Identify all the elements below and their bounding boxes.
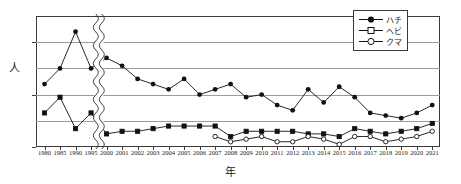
x-tick-label: 2014 [317, 149, 330, 156]
x-tick-mark [91, 147, 92, 150]
x-tick-label: 2013 [302, 149, 315, 156]
x-axis-label: 年 [0, 163, 461, 179]
x-tick-label: 2017 [364, 149, 377, 156]
x-tick-mark [231, 147, 232, 150]
y-tick-mark [32, 147, 36, 148]
chart-legend: ハチ ヘビ クマ [353, 10, 408, 51]
filled-circle-icon [358, 14, 384, 25]
x-tick-mark [293, 147, 294, 150]
x-tick-mark [370, 147, 371, 150]
x-tick-label: 2007 [209, 149, 222, 156]
x-tick-label: 2016 [348, 149, 361, 156]
x-tick-label: 1980 [38, 149, 51, 156]
x-tick-mark [401, 147, 402, 150]
x-tick-mark [324, 147, 325, 150]
x-tick-label: 2006 [193, 149, 206, 156]
x-tick-mark [308, 147, 309, 150]
axis-break-mask [94, 17, 103, 146]
x-tick-label: 2015 [333, 149, 346, 156]
x-tick-mark [107, 147, 108, 150]
chart-figure: 人 年 02040 198019851990199520002001200220… [0, 0, 461, 184]
x-tick-mark [417, 147, 418, 150]
x-tick-mark [76, 147, 77, 150]
x-tick-label: 2021 [426, 149, 439, 156]
y-axis-label: 人 [2, 62, 22, 73]
x-tick-label: 2001 [116, 149, 129, 156]
x-tick-mark [122, 147, 123, 150]
x-tick-mark [169, 147, 170, 150]
x-tick-label: 2011 [271, 149, 284, 156]
x-tick-label: 2010 [255, 149, 268, 156]
x-tick-mark [215, 147, 216, 150]
x-tick-label: 1995 [85, 149, 98, 156]
legend-label: クマ [384, 36, 402, 47]
x-tick-label: 2003 [147, 149, 160, 156]
x-tick-mark [339, 147, 340, 150]
x-tick-label: 2004 [162, 149, 175, 156]
x-tick-label: 2018 [379, 149, 392, 156]
x-tick-mark [45, 147, 46, 150]
x-tick-label: 2002 [131, 149, 144, 156]
x-tick-mark [386, 147, 387, 150]
x-tick-mark [184, 147, 185, 150]
open-square-icon [358, 25, 384, 36]
legend-label: ヘビ [384, 25, 402, 36]
x-tick-label: 2012 [286, 149, 299, 156]
x-tick-mark [200, 147, 201, 150]
x-tick-mark [246, 147, 247, 150]
x-tick-label: 2020 [410, 149, 423, 156]
open-circle-icon [358, 36, 384, 47]
legend-item: クマ [358, 36, 402, 47]
x-tick-mark [60, 147, 61, 150]
x-tick-mark [138, 147, 139, 150]
x-tick-label: 2009 [240, 149, 253, 156]
legend-item: ハチ [358, 14, 402, 25]
x-tick-label: 2005 [178, 149, 191, 156]
x-tick-label: 1990 [69, 149, 82, 156]
x-tick-mark [432, 147, 433, 150]
x-tick-mark [277, 147, 278, 150]
x-tick-label: 2008 [224, 149, 237, 156]
x-tick-mark [262, 147, 263, 150]
legend-label: ハチ [384, 14, 402, 25]
legend-item: ヘビ [358, 25, 402, 36]
x-tick-label: 1985 [54, 149, 67, 156]
x-tick-label: 2000 [100, 149, 113, 156]
x-tick-mark [153, 147, 154, 150]
x-tick-mark [355, 147, 356, 150]
x-tick-label: 2019 [395, 149, 408, 156]
